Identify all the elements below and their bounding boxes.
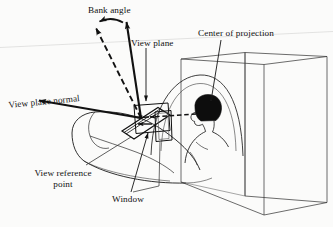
pilot-head-and-shoulders (185, 95, 229, 166)
label-bank-angle: Bank angle (88, 5, 131, 16)
label-view-reference-point-line1: View reference (27, 168, 99, 179)
label-view-reference-point: View reference point (27, 168, 99, 189)
bank-angle-arc-arrow (100, 19, 124, 22)
label-window: Window (112, 194, 144, 205)
diagram-canvas (0, 0, 333, 227)
view-up-vector-arrow (127, 22, 142, 118)
figure-viewing-parameters: Bank angle View plane Center of projecti… (0, 0, 333, 227)
label-view-plane: View plane (131, 38, 174, 49)
room-box-wireframe (181, 53, 327, 216)
label-center-of-projection: Center of projection (198, 28, 274, 39)
label-view-reference-point-line2: point (27, 179, 99, 190)
